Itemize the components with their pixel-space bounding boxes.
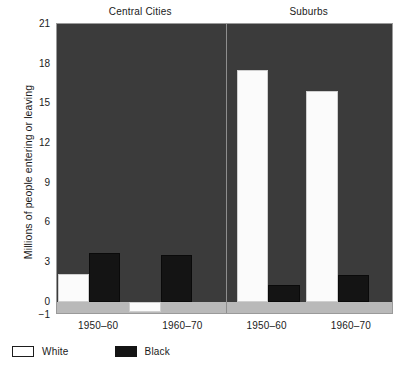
chart-figure: Millions of people entering or leaving C… — [0, 0, 408, 371]
y-tick-12: 12 — [4, 137, 50, 148]
chart-legend: White Black — [12, 346, 170, 357]
legend-label-white: White — [42, 346, 69, 357]
x-tick-suburbs-1950-60: 1950–60 — [227, 320, 307, 331]
panel-divider — [226, 24, 227, 313]
legend-label-black: Black — [145, 346, 170, 357]
plot-area — [56, 23, 393, 314]
bar-suburbs-1950-60-white — [237, 70, 268, 301]
bar-central-cities-1950-60-white — [58, 274, 89, 302]
y-tick-9: 9 — [4, 176, 50, 187]
x-tick-central-cities-1950-60: 1950–60 — [58, 320, 138, 331]
y-tick-21: 21 — [4, 18, 50, 29]
bar-suburbs-1960-70-black — [338, 275, 369, 301]
bar-suburbs-1960-70-white — [306, 91, 337, 301]
y-tick-18: 18 — [4, 57, 50, 68]
x-tick-central-cities-1960-70: 1960–70 — [142, 320, 222, 331]
legend-swatch-white-icon — [12, 346, 34, 357]
y-tick-3: 3 — [4, 256, 50, 267]
bar-suburbs-1950-60-black — [268, 285, 299, 302]
y-tick-0: 0 — [4, 295, 50, 306]
y-tick-15: 15 — [4, 97, 50, 108]
panel-title-central-cities: Central Cities — [56, 6, 225, 17]
y-tick-neg1: −1 — [4, 309, 50, 320]
y-tick-6: 6 — [4, 216, 50, 227]
legend-item-black: Black — [115, 346, 170, 357]
y-axis-tick-labels: 211815129630−1 — [0, 0, 50, 371]
legend-item-white: White — [12, 346, 69, 357]
bar-central-cities-1960-70-white — [129, 302, 160, 313]
panel-title-suburbs: Suburbs — [225, 6, 394, 17]
x-tick-suburbs-1960-70: 1960–70 — [311, 320, 391, 331]
legend-swatch-black-icon — [115, 346, 137, 357]
negative-value-band — [57, 302, 392, 314]
bar-central-cities-1950-60-black — [89, 253, 120, 302]
bar-central-cities-1960-70-black — [161, 255, 192, 301]
